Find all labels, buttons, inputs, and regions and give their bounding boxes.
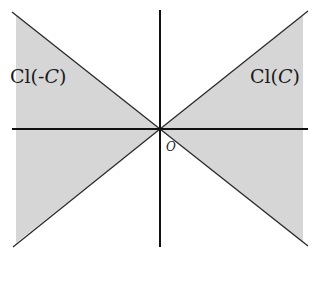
cone-right-label-prefix: Cl( (250, 65, 278, 87)
cone-right-label: Cl(C) (250, 65, 300, 87)
origin-label: O (166, 140, 176, 154)
cone-right-label-var: C (278, 65, 293, 87)
cone-right-label-suffix: ) (293, 65, 300, 87)
cone-left-label-prefix: Cl(- (10, 65, 44, 87)
cone-left-label-var: C (44, 65, 59, 87)
cone-left-label: Cl(-C) (10, 65, 66, 87)
cone-diagram (0, 0, 314, 284)
cone-left-label-suffix: ) (59, 65, 66, 87)
